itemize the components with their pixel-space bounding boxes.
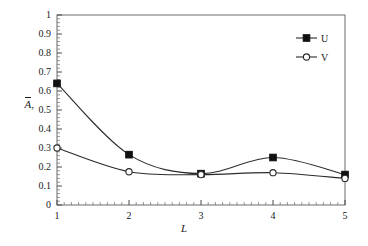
- y-tick-label: 0.8: [21, 47, 51, 58]
- data-point-v: [270, 170, 276, 176]
- legend-entry-label-u: U: [321, 33, 328, 44]
- data-point-v: [342, 175, 348, 181]
- legend-entry-label-v: V: [321, 52, 328, 63]
- y-tick-label: 0.9: [21, 28, 51, 39]
- x-tick-label: 5: [335, 210, 355, 221]
- x-tick-label: 3: [191, 210, 211, 221]
- y-tick-label: 0.6: [21, 85, 51, 96]
- x-axis-title-text: L: [181, 222, 187, 234]
- y-tick-label: 0: [21, 199, 51, 210]
- y-tick-label: 0.3: [21, 142, 51, 153]
- y-tick-label: 0.4: [21, 123, 51, 134]
- y-tick-label: 0.2: [21, 161, 51, 172]
- data-point-u: [270, 154, 277, 161]
- x-axis-title: L: [0, 222, 368, 234]
- data-point-v: [198, 172, 204, 178]
- series-markers: [54, 80, 349, 181]
- x-tick-label: 4: [263, 210, 283, 221]
- legend-marker-filled-square: [303, 35, 310, 42]
- data-point-u: [54, 80, 61, 87]
- legend-marker-open-circle: [303, 54, 309, 60]
- x-tick-label: 1: [47, 210, 67, 221]
- data-point-v: [54, 145, 60, 151]
- y-tick-label: 0.7: [21, 66, 51, 77]
- series-lines: [57, 83, 345, 178]
- data-point-u: [126, 151, 133, 158]
- y-tick-label: 1: [21, 9, 51, 20]
- chart-figure: A, L 00.10.20.30.40.50.60.70.80.91 12345…: [0, 0, 368, 246]
- data-point-v: [126, 169, 132, 175]
- y-tick-label: 0.5: [21, 104, 51, 115]
- y-axis-major-ticks: [57, 15, 62, 205]
- y-tick-label: 0.1: [21, 180, 51, 191]
- x-tick-label: 2: [119, 210, 139, 221]
- series-line-u: [57, 83, 345, 174]
- legend-markers: [296, 35, 317, 60]
